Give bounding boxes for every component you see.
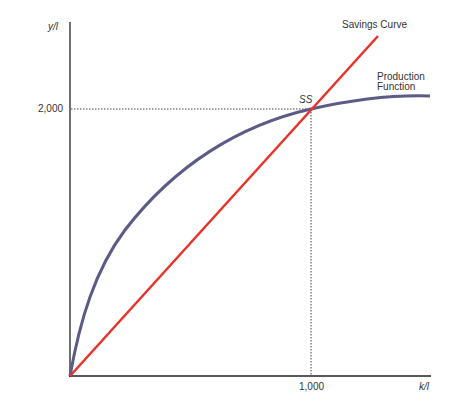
savings-curve-label: Savings Curve <box>342 19 407 30</box>
x-tick-label: 1,000 <box>299 381 324 392</box>
chart-canvas <box>0 0 461 410</box>
y-axis-label: y/l <box>48 21 58 32</box>
production-label-line2: Function <box>377 82 425 92</box>
production-function-label: Production Function <box>377 72 425 92</box>
production-function-curve <box>70 96 430 376</box>
y-tick-label: 2,000 <box>38 103 63 114</box>
x-axis-label: k/l <box>419 381 429 392</box>
savings-curve-line <box>70 36 378 376</box>
steady-state-label: SS <box>299 94 312 105</box>
